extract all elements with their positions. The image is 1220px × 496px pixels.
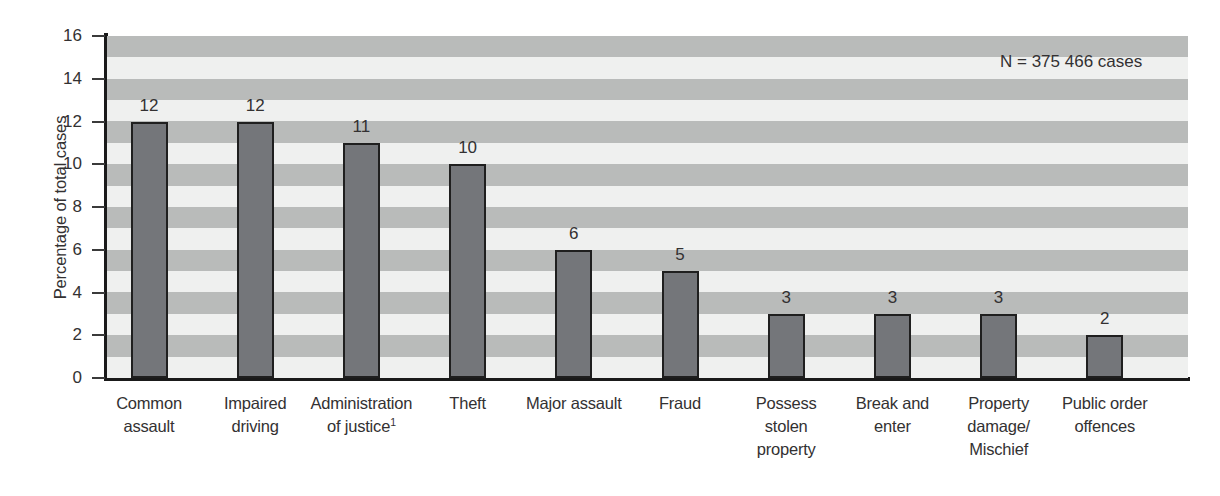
y-axis-tick-label: 6 bbox=[12, 241, 82, 258]
footnote-marker: 1 bbox=[390, 416, 396, 428]
y-axis-tick bbox=[92, 334, 105, 336]
category-label-line: Public order bbox=[1042, 392, 1168, 415]
y-axis-tick bbox=[92, 163, 105, 165]
y-axis-tick-label: 10 bbox=[12, 155, 82, 172]
bar bbox=[768, 314, 805, 378]
y-axis-tick-label: 16 bbox=[12, 27, 82, 44]
y-axis-tick-label: 2 bbox=[12, 326, 82, 343]
y-axis-tick bbox=[92, 377, 105, 379]
bar bbox=[343, 143, 380, 378]
category-label-line: Mischief bbox=[936, 438, 1062, 461]
bar-value-label: 12 bbox=[225, 97, 285, 114]
y-axis-tick bbox=[92, 121, 105, 123]
y-axis-tick bbox=[92, 292, 105, 294]
bar-value-label: 12 bbox=[119, 97, 179, 114]
y-axis-tick-label: 14 bbox=[12, 70, 82, 87]
bar-value-label: 3 bbox=[969, 289, 1029, 306]
y-axis-tick bbox=[92, 78, 105, 80]
y-axis-tick bbox=[92, 249, 105, 251]
bar bbox=[449, 164, 486, 378]
sample-size-annotation: N = 375 466 cases bbox=[1000, 52, 1142, 72]
category-label-line: property bbox=[723, 438, 849, 461]
bar-value-label: 2 bbox=[1075, 310, 1135, 327]
bar bbox=[1086, 335, 1123, 378]
bar-value-label: 10 bbox=[438, 139, 498, 156]
bar bbox=[131, 122, 168, 379]
bar-value-label: 3 bbox=[756, 289, 816, 306]
bar bbox=[662, 271, 699, 378]
bar-value-label: 6 bbox=[544, 225, 604, 242]
x-axis-category-label: Public orderoffences bbox=[1042, 392, 1168, 438]
y-axis-tick-label: 12 bbox=[12, 113, 82, 130]
category-label-line: offences bbox=[1042, 415, 1168, 438]
y-axis-tick-label: 0 bbox=[12, 369, 82, 386]
y-axis-tick bbox=[92, 35, 105, 37]
bar-value-label: 3 bbox=[862, 289, 922, 306]
bar-chart-figure: Percentage of total cases 0246810121416 … bbox=[0, 0, 1220, 496]
bar bbox=[555, 250, 592, 378]
bar-value-label: 5 bbox=[650, 246, 710, 263]
bar bbox=[237, 122, 274, 379]
bar-value-label: 11 bbox=[331, 118, 391, 135]
y-axis-tick-label: 8 bbox=[12, 198, 82, 215]
bar bbox=[980, 314, 1017, 378]
y-axis-tick bbox=[92, 206, 105, 208]
bar bbox=[874, 314, 911, 378]
category-label-line: of justice1 bbox=[298, 415, 424, 438]
y-axis-tick-label: 4 bbox=[12, 284, 82, 301]
